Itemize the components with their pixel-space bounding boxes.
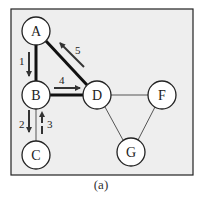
- node-a-label: A: [31, 24, 42, 39]
- node-c: C: [22, 141, 50, 169]
- node-c-label: C: [31, 148, 40, 163]
- arrow-step-3-label: 3: [47, 118, 53, 130]
- figure-caption: (a): [0, 177, 202, 193]
- node-g-label: G: [126, 145, 136, 160]
- node-g: G: [117, 138, 145, 166]
- node-f: F: [148, 81, 176, 109]
- arrow-step-2-label: 2: [19, 118, 25, 130]
- arrow-step-4-label: 4: [59, 74, 65, 86]
- node-d-label: D: [92, 88, 102, 103]
- node-d: D: [83, 81, 111, 109]
- arrow-step-1-label: 1: [19, 55, 25, 67]
- graph-figure: 1 2 3 4 5 A B C D F: [0, 0, 202, 200]
- arrow-step-5-label: 5: [75, 44, 81, 56]
- node-b-label: B: [31, 88, 40, 103]
- node-a: A: [22, 17, 50, 45]
- node-f-label: F: [158, 88, 166, 103]
- node-b: B: [22, 81, 50, 109]
